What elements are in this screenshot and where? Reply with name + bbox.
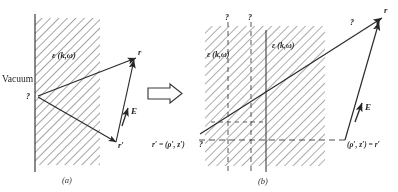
panel-a: Vacuum ε (k,ω) ? r r′ E (a): [2, 14, 142, 185]
panel-a-vacuum-label: Vacuum: [2, 74, 34, 84]
panel-a-e-label: E: [130, 106, 137, 116]
panel-a-origin-label: ?: [26, 92, 30, 101]
panel-b-field-point-label: r: [384, 5, 388, 15]
panel-b-ray-marker: ?: [350, 18, 354, 27]
transform-arrow: [148, 84, 182, 103]
panel-a-caption: (a): [62, 175, 72, 185]
physics-figure: Vacuum ε (k,ω) ? r r′ E (a): [0, 0, 398, 192]
panel-b-ray-e: [345, 22, 379, 140]
figure-canvas: Vacuum ε (k,ω) ? r r′ E (a): [0, 0, 398, 192]
panel-b: ? ? ε (k,ω) ε (k,ω) ? ? r E (ρ′, z′) = r…: [152, 5, 388, 186]
panel-b-e-arrow: [355, 103, 362, 122]
panel-b-dielectric-region: [205, 26, 325, 166]
panel-b-origin-marker: ?: [199, 140, 203, 149]
panel-a-dielectric-label: ε (k,ω): [52, 50, 76, 60]
panel-b-source-definition-label: r′ = (ρ′, z′): [152, 140, 185, 149]
panel-a-ray-e: [116, 60, 134, 142]
panel-b-dielectric-label-right: ε (k,ω): [272, 41, 295, 50]
panel-b-top-marker-1: ?: [225, 13, 229, 22]
panel-a-dielectric-region: [35, 18, 100, 165]
panel-b-e-label: E: [364, 102, 371, 112]
panel-b-top-marker-2: ?: [248, 13, 252, 22]
panel-a-source-point-label: r′: [118, 140, 124, 150]
panel-b-source-coords-label: (ρ′, z′) = r′: [347, 140, 380, 149]
panel-a-field-point-label: r: [138, 47, 142, 57]
panel-b-dielectric-label-left: ε (k,ω): [207, 50, 230, 59]
implies-arrow-icon: [148, 84, 182, 103]
panel-b-caption: (b): [258, 176, 268, 186]
